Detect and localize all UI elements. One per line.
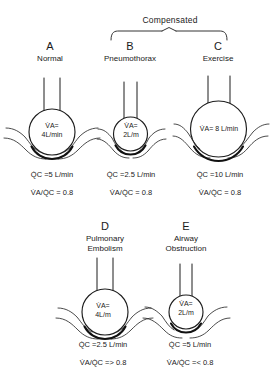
compensated-bracket [108, 27, 230, 41]
panel-title-a: Normal [15, 54, 85, 64]
group-label-compensated: Compensated [105, 15, 235, 25]
panel-letter-a: A [25, 40, 75, 52]
va-label-b-line2: 2L/m [123, 131, 139, 138]
qc-label-d: Q̇C =2.5 L/min [62, 340, 144, 349]
panel-letter-c: C [193, 40, 243, 52]
va-label-b: V̇A= 2L/m [108, 122, 154, 139]
alveolus-diagram-e [140, 252, 244, 344]
va-label-a-line2: 4L/min [41, 131, 62, 138]
panel-letter-d: D [85, 220, 125, 232]
ratio-label-b: V̇A/Q̇C = 0.8 [91, 188, 171, 197]
panel-letter-e: E [166, 220, 206, 232]
alveolus-diagram-a [0, 66, 110, 162]
va-label-e: V̇A= 2L/m [163, 300, 209, 317]
panel-title-e-line1: Airway [174, 234, 198, 243]
va-label-a-line1: V̇A= [45, 122, 58, 129]
va-label-d: V̇A= 4L/m [80, 302, 126, 319]
alveolus-diagram-c [172, 66, 270, 162]
qc-label-c: Q̇C =10 L/min [180, 170, 260, 179]
qc-label-b: Q̇C =2.5 L/min [91, 170, 171, 179]
panel-title-d: Pulmonary Embolism [70, 234, 140, 253]
va-label-e-line1: V̇A= [179, 300, 192, 307]
va-label-c: V̇A= 8 L/min [186, 125, 252, 133]
panel-title-d-line1: Pulmonary [86, 234, 124, 243]
panel-title-b: Pneumothorax [92, 54, 168, 64]
va-label-b-line1: V̇A= [124, 122, 137, 129]
figure-canvas: Compensated A Normal V̇A= 4L/min Q̇C =5 … [0, 0, 270, 382]
ratio-label-e: V̇A/Q̇C =< 0.8 [152, 358, 228, 367]
va-label-a: V̇A= 4L/min [27, 122, 77, 139]
qc-label-a: Q̇C =5 L/min [14, 170, 90, 179]
va-label-d-line1: V̇A= [96, 302, 109, 309]
qc-label-e: Q̇C =5 L/min [152, 340, 228, 349]
ratio-label-d: V̇A/Q̇C => 0.8 [62, 358, 144, 367]
panel-title-c: Exercise [186, 54, 250, 64]
panel-letter-b: B [105, 40, 155, 52]
panel-title-e: Airway Obstruction [151, 234, 221, 253]
va-label-e-line2: 2L/m [178, 309, 194, 316]
ratio-label-c: V̇A/Q̇C = 0.8 [180, 188, 260, 197]
ratio-label-a: V̇A/Q̇C = 0.8 [14, 188, 90, 197]
va-label-d-line2: 4L/m [95, 311, 111, 318]
